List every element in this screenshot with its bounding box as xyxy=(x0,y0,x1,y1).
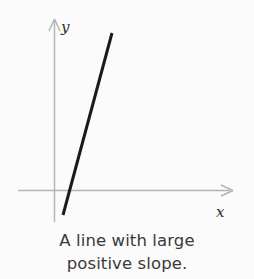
plotted-line xyxy=(63,33,112,215)
caption-line-1: A line with large xyxy=(0,229,254,252)
figure-container: y x A line with large positive slope. xyxy=(0,0,254,279)
x-axis-label: x xyxy=(216,203,225,221)
caption-line-2: positive slope. xyxy=(0,252,254,275)
y-axis-label: y xyxy=(60,18,70,36)
figure-caption: A line with large positive slope. xyxy=(0,229,254,275)
